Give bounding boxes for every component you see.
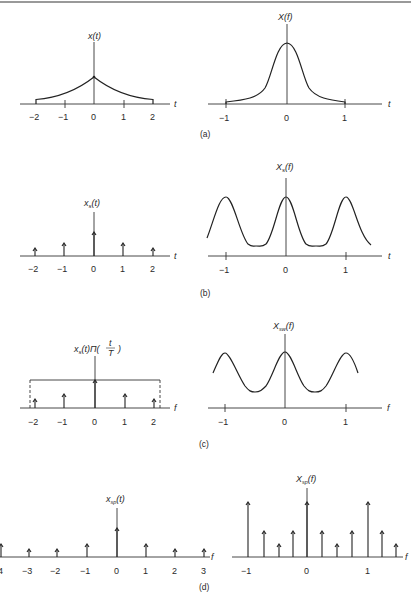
tick-label: −2 [28,264,38,274]
panel-b-left-plot: t xs(t) −2 −1 0 1 2 [20,198,177,274]
tick-label: 1 [343,417,348,427]
axis-var-label: f [211,552,215,562]
function-label: xs(t)Π( t T ) [73,338,121,358]
caption-b: (b) [200,288,211,298]
tick-label: −1 [241,566,251,576]
tick-label: 1 [122,417,127,427]
function-label: xs(t) [83,198,100,209]
tick-label: 1 [143,566,148,576]
panel-d-left-plot: f xsp(t) 4 −3 −2 −1 0 1 2 3 [0,494,215,576]
axis-var-label: t [174,251,177,261]
tick-label: 4 [0,566,3,576]
tick-label: −1 [57,417,67,427]
tick-label: 0 [284,113,289,123]
tick-label: −1 [219,113,229,123]
tick-label: 0 [283,265,288,275]
periodic-spectrum-curve [207,197,371,246]
tick-label: 0 [91,112,96,122]
tick-marks [226,99,345,108]
function-label: Xs(f) [275,162,294,173]
tick-label: 2 [151,417,156,427]
axis-var-label: t [388,99,391,109]
tick-label: −1 [58,112,68,122]
caption-a: (a) [200,129,211,139]
tick-label: 0 [114,566,119,576]
tick-label: 2 [150,112,155,122]
smoothed-spectrum-curve [213,352,358,392]
tick-label: 0 [304,566,309,576]
tick-label: −1 [218,417,228,427]
tick-label: 1 [121,112,126,122]
panel-b-right-plot: t Xs(f) −1 0 1 [207,162,391,275]
tick-label: −1 [57,264,67,274]
tick-label: −2 [29,112,39,122]
tick-label: 1 [120,264,125,274]
panel-d-right-plot: f Xsp(f) −1 0 1 [232,474,409,576]
tick-label: −1 [80,566,90,576]
decay-curve [36,77,153,104]
line-spectrum [246,502,398,557]
impulse-train [33,232,155,256]
axis-var-label: t [174,99,177,109]
tick-label: 1 [343,265,348,275]
tick-label: 1 [365,566,370,576]
axis-var-label: t [388,251,391,261]
tick-label: 2 [172,566,177,576]
svg-text:T: T [108,348,115,358]
impulse-train [33,380,156,408]
sampling-fourier-figure: t x(t) −2 −1 0 1 2 t X(f) −1 0 1 (a) t [0,0,411,595]
panel-c-right-plot: f Xsw(f) −1 0 1 [208,321,391,427]
axis-var-label: f [387,403,391,413]
panel-c-left-plot: f xs(t)Π( t T ) −2 −1 0 1 2 [20,338,178,427]
function-label: Xsp(f) [295,474,316,485]
panel-a-right-plot: t X(f) −1 0 1 [208,12,391,123]
tick-label: 0 [282,417,287,427]
tick-label: 3 [201,566,206,576]
svg-text:): ) [117,344,121,354]
caption-c: (c) [199,439,209,449]
function-label: X(f) [277,12,293,22]
function-label: xsp(t) [105,494,125,505]
panel-a-left-plot: t x(t) −2 −1 0 1 2 [20,31,177,122]
tick-label: −3 [22,566,32,576]
tick-label: 0 [91,264,96,274]
tick-label: −1 [219,265,229,275]
caption-d: (d) [199,582,210,592]
axis-var-label: f [174,403,178,413]
periodic-impulse-train [0,528,206,557]
tick-label: 0 [92,417,97,427]
tick-label: 1 [342,113,347,123]
tick-label: −2 [28,417,38,427]
axis-var-label: f [405,552,409,562]
bell-curve [226,43,345,104]
tick-label: −2 [50,566,60,576]
svg-text:t: t [109,338,112,348]
function-label: x(t) [87,31,101,41]
tick-label: 2 [150,264,155,274]
function-label: Xsw(f) [272,321,294,332]
svg-text:xs(t)Π(: xs(t)Π( [73,344,101,355]
